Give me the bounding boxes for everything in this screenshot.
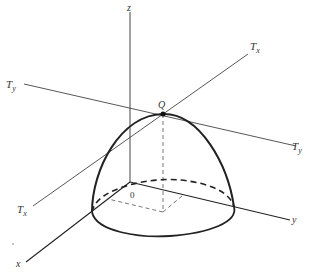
surface-diagram: z Ty Ty Tx Tx x y Q 0 <box>0 0 310 272</box>
stray-mark <box>12 243 13 244</box>
y-axis <box>130 182 290 220</box>
tangent-line-tx <box>33 54 248 206</box>
apex-point-label: Q <box>158 99 166 110</box>
z-axis-label: z <box>126 2 131 13</box>
apex-point-q <box>161 112 166 117</box>
tangent-tx-bottom-label: Tx <box>17 203 27 218</box>
x-axis-label: x <box>15 258 21 269</box>
tangent-ty-right-label: Ty <box>292 140 302 155</box>
projection-y-dashed <box>163 196 182 212</box>
tangent-tx-top-label: Tx <box>250 40 260 55</box>
origin-label: 0 <box>130 190 135 200</box>
y-axis-label: y <box>291 214 297 225</box>
tangent-ty-left-label: Ty <box>6 78 16 93</box>
projection-x-dashed <box>108 199 163 212</box>
x-axis <box>26 182 130 262</box>
